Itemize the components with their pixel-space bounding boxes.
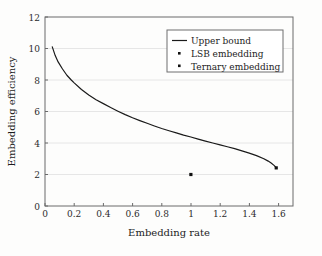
y-axis-title: Embedding efficiency: [6, 56, 17, 166]
x-tick-label: 1.4: [242, 209, 257, 219]
x-axis-title: Embedding rate: [128, 227, 210, 238]
x-tick-labels: 0 0.2 0.4 0.6 0.8 1 1.2 1.4 1.6: [42, 209, 286, 219]
x-tick-label: 1.6: [271, 209, 286, 219]
chart-figure: 12 10 8 6 4 2 0 0 0.2 0.4 0.6 0.8 1 1.2 …: [0, 0, 322, 256]
y-tick-label: 8: [34, 76, 40, 86]
y-tick-label: 10: [29, 44, 41, 54]
legend-marker-dot-icon: [178, 65, 181, 68]
chart-canvas: 12 10 8 6 4 2 0 0 0.2 0.4 0.6 0.8 1 1.2 …: [0, 0, 322, 256]
y-tick-label: 0: [34, 202, 40, 212]
x-tick-label: 0.8: [155, 209, 170, 219]
y-tick-labels: 12 10 8 6 4 2 0: [29, 13, 41, 212]
x-tick-label: 0.4: [96, 209, 111, 219]
x-tick-label: 1: [188, 209, 194, 219]
legend-marker-dot-icon: [178, 52, 181, 55]
legend-label-ternary-embedding: Ternary embedding: [191, 62, 280, 72]
x-tick-label: 0.6: [125, 209, 140, 219]
legend-label-lsb-embedding: LSB embedding: [191, 49, 264, 59]
x-tick-label: 1.2: [213, 209, 227, 219]
data-point-lsb-embedding: [189, 173, 192, 176]
y-tick-label: 6: [34, 107, 40, 117]
x-tick-label: 0: [42, 209, 48, 219]
y-tick-label: 12: [29, 13, 40, 23]
x-tick-label: 0.2: [67, 209, 81, 219]
y-tick-label: 4: [34, 139, 40, 149]
chart-legend: Upper bound LSB embedding Ternary embedd…: [167, 30, 283, 72]
legend-label-upper-bound: Upper bound: [191, 36, 251, 46]
y-tick-label: 2: [34, 170, 40, 180]
data-point-ternary-embedding: [275, 166, 278, 169]
